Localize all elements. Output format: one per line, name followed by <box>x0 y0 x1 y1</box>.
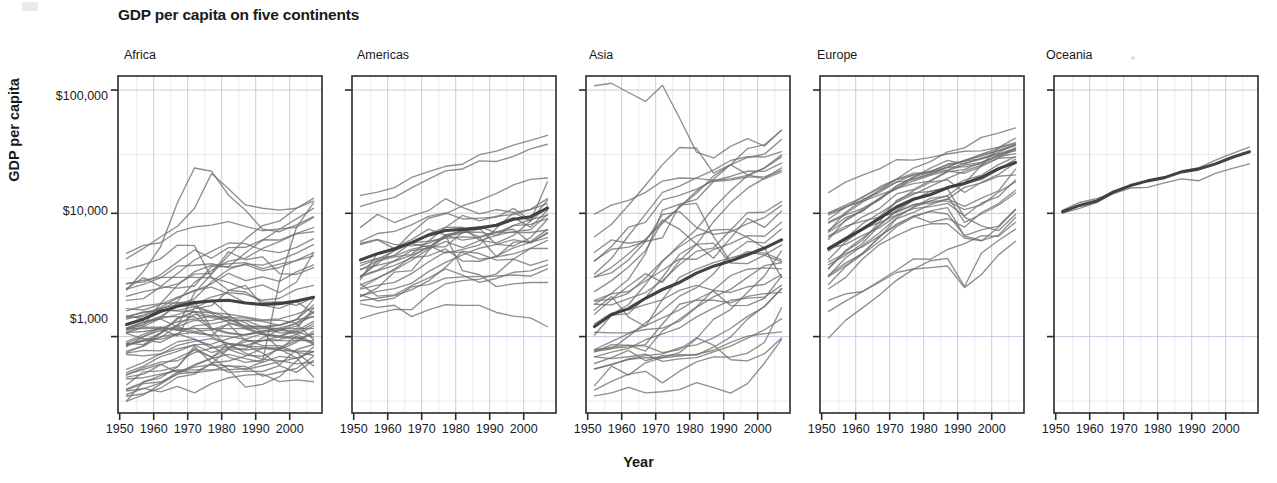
panel-title-oceania: Oceania <box>1046 48 1093 62</box>
x-tick-label: 1980 <box>910 422 938 436</box>
x-tick-label: 1970 <box>408 422 436 436</box>
x-tick-label: 1980 <box>1144 422 1172 436</box>
x-tick-label: 1960 <box>608 422 636 436</box>
x-tick-label: 1960 <box>140 422 168 436</box>
x-tick-label: 1990 <box>242 422 270 436</box>
x-tick-label: 1980 <box>208 422 236 436</box>
panel-title-asia: Asia <box>589 48 613 62</box>
x-tick-label: 1970 <box>642 422 670 436</box>
x-tick-label: 1950 <box>808 422 836 436</box>
x-tick-label: 1970 <box>876 422 904 436</box>
x-tick-label: 2000 <box>1212 422 1240 436</box>
x-tick-label: 1950 <box>340 422 368 436</box>
x-tick-label: 2000 <box>510 422 538 436</box>
x-tick-label: 1970 <box>1110 422 1138 436</box>
panel-title-europe: Europe <box>817 48 857 62</box>
x-tick-label: 1980 <box>442 422 470 436</box>
x-tick-label: 1970 <box>174 422 202 436</box>
x-tick-label: 2000 <box>978 422 1006 436</box>
x-tick-label: 1950 <box>1042 422 1070 436</box>
panel-title-americas: Americas <box>357 48 409 62</box>
y-tick-label-10000: $10,000 <box>63 204 108 218</box>
x-tick-label: 1960 <box>1076 422 1104 436</box>
x-tick-label: 1990 <box>710 422 738 436</box>
x-tick-label: 1950 <box>106 422 134 436</box>
x-tick-label: 1960 <box>374 422 402 436</box>
page-artifact-mark <box>22 2 38 11</box>
x-tick-label: 2000 <box>744 422 772 436</box>
x-tick-label: 1950 <box>574 422 602 436</box>
x-tick-label: 1960 <box>842 422 870 436</box>
y-tick-label-1000: $1,000 <box>70 312 108 326</box>
x-tick-label: 1990 <box>476 422 504 436</box>
plot-canvas <box>0 0 1277 483</box>
chart-title: GDP per capita on five continents <box>118 6 359 24</box>
x-tick-label: 1990 <box>1178 422 1206 436</box>
x-tick-label: 2000 <box>276 422 304 436</box>
y-axis-label: GDP per capita <box>6 40 22 220</box>
x-axis-label: Year <box>0 454 1277 470</box>
x-tick-label: 1990 <box>944 422 972 436</box>
oceania-speck <box>1131 56 1135 60</box>
panel-title-africa: Africa <box>124 48 156 62</box>
y-tick-label-100000: $100,000 <box>56 89 108 103</box>
chart-figure: GDP per capita on five continents GDP pe… <box>0 0 1277 483</box>
x-tick-label: 1980 <box>676 422 704 436</box>
